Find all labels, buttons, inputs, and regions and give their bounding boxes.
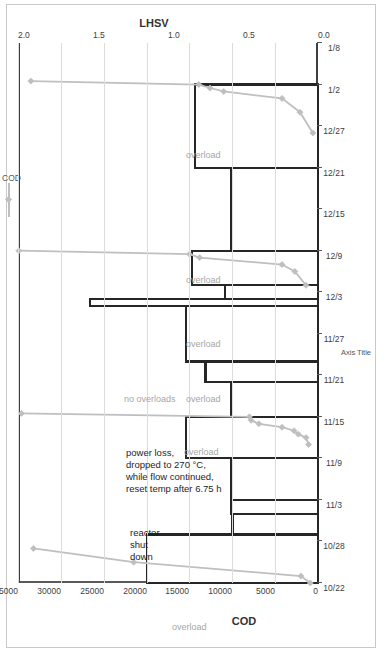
y-tick-label: 5000 xyxy=(256,586,275,596)
x-tick xyxy=(317,125,322,126)
x-tick-label: 10/22 xyxy=(323,583,344,593)
x-tick-label: 12/15 xyxy=(323,209,344,219)
gridline xyxy=(232,43,233,583)
x-tick xyxy=(317,42,322,43)
y-tick-label: 20000 xyxy=(123,586,147,596)
annotation-no-overloads: no overloads xyxy=(124,394,176,405)
x-tick xyxy=(317,415,322,416)
x-tick-label: 11/9 xyxy=(326,458,342,468)
annotation-overload-2: overload xyxy=(184,447,219,458)
x-tick-label: 10/28 xyxy=(323,541,344,551)
lhsv-step-bar xyxy=(206,361,319,382)
x-tick xyxy=(317,498,322,499)
x-tick xyxy=(317,291,322,292)
cod-marker xyxy=(28,78,34,84)
x-tick-label: 1/2 xyxy=(328,84,340,94)
annotation-overload-3: overload xyxy=(186,394,221,405)
x-axis-title: Axis Title xyxy=(341,347,371,356)
plot-area: 050001000015000200002500030000350000.00.… xyxy=(18,43,318,583)
gridline xyxy=(189,43,190,583)
gridline xyxy=(275,43,276,583)
y-tick-label: 10000 xyxy=(209,586,233,596)
gridline xyxy=(104,43,105,583)
series-layer xyxy=(18,43,318,583)
gridline xyxy=(18,43,19,583)
x-tick-label: 12/21 xyxy=(323,167,344,177)
x-tick xyxy=(317,457,322,458)
annotation-overload-1: overload xyxy=(172,622,207,633)
x-tick xyxy=(317,166,322,167)
x-tick-label: 12/3 xyxy=(326,292,343,302)
screenshot-page: COD 050001000015000200002500030000350000… xyxy=(0,0,384,653)
x-tick-label: 1/8 xyxy=(328,43,340,53)
annotation-overload-6: overload xyxy=(186,150,221,161)
y2-tick-label: 0.0 xyxy=(318,30,330,40)
chart-figure: COD 050001000015000200002500030000350000… xyxy=(4,7,380,647)
y-tick-label: 35000 xyxy=(0,586,18,596)
y2-tick-label: 1.5 xyxy=(93,30,105,40)
x-tick xyxy=(317,208,322,209)
y-tick-label: 30000 xyxy=(37,586,61,596)
y2-tick-label: 2.0 xyxy=(18,30,30,40)
x-tick xyxy=(317,249,322,250)
gridline xyxy=(147,43,148,583)
x-tick-label: 11/27 xyxy=(324,333,345,343)
x-tick xyxy=(317,332,322,333)
x-tick xyxy=(317,374,322,375)
x-tick xyxy=(317,83,322,84)
annotation-reactor-shut-down: reactor shut down xyxy=(130,527,160,563)
annotation-overload-5: overload xyxy=(186,275,221,286)
y2-axis-title: LHSV xyxy=(139,17,168,29)
y-tick-label: 15000 xyxy=(166,586,190,596)
y2-tick-label: 1.0 xyxy=(168,30,180,40)
cod-marker xyxy=(18,410,24,416)
x-tick-label: 12/27 xyxy=(323,126,344,136)
x-tick-label: 11/21 xyxy=(324,375,345,385)
y2-tick-label: 0.5 xyxy=(243,30,255,40)
annotation-overload-4: overload xyxy=(186,339,221,350)
chart-legend: COD xyxy=(0,97,18,217)
x-tick-label: 11/15 xyxy=(324,416,345,426)
x-tick-label: 12/9 xyxy=(326,250,343,260)
rotated-chart-wrapper: COD 050001000015000200002500030000350000… xyxy=(4,7,380,647)
x-tick xyxy=(317,582,322,583)
x-tick-label: 11/3 xyxy=(326,499,342,509)
cod-marker xyxy=(30,545,36,551)
y-axis-title: COD xyxy=(232,615,256,627)
y-tick-label: 0 xyxy=(313,586,318,596)
gridline xyxy=(61,43,62,583)
y-tick-label: 25000 xyxy=(80,586,104,596)
x-tick xyxy=(317,540,322,541)
legend-marker-cod xyxy=(5,195,12,202)
lhsv-step-bar xyxy=(186,306,318,361)
